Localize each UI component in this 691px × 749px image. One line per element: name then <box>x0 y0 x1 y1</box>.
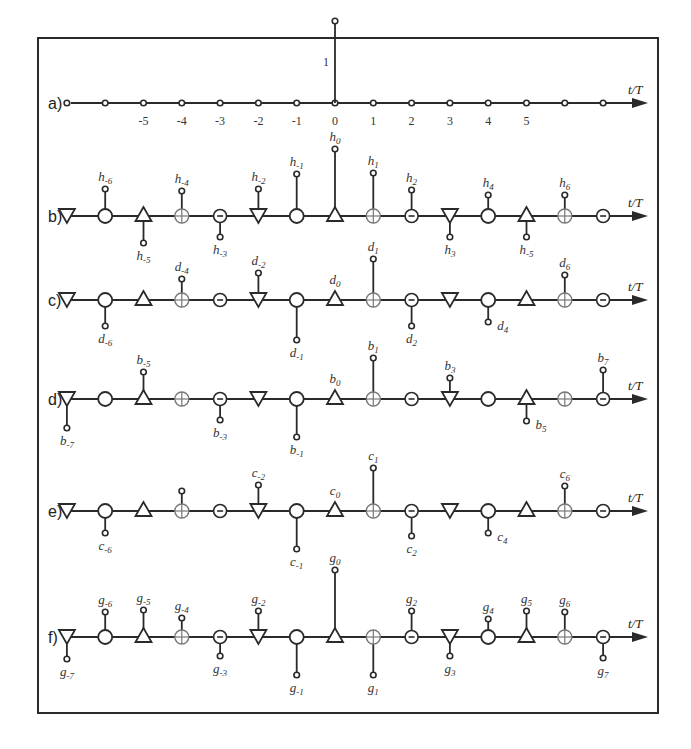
stem-tip <box>102 323 108 329</box>
tick-label: -5 <box>139 114 149 128</box>
sample-point <box>447 100 453 106</box>
sample-point <box>485 100 491 106</box>
stem-tip <box>409 533 415 539</box>
stem-tip <box>562 192 568 198</box>
coefficient-label: h4 <box>483 175 495 192</box>
stem-tip <box>447 234 453 240</box>
stem-tip <box>409 323 415 329</box>
sample-symbol-circle-icon <box>98 504 112 518</box>
axis-arrow-icon <box>632 632 648 642</box>
axis-arrow-icon <box>632 98 648 108</box>
stem-tip <box>562 483 568 489</box>
sample-symbol-circle-minus-icon <box>597 505 610 518</box>
coefficient-label: b1 <box>368 338 379 355</box>
coefficient-label: h2 <box>406 170 418 187</box>
axis-arrow-icon <box>632 506 648 516</box>
coefficient-label: g4 <box>483 599 495 616</box>
axis-arrow-icon <box>632 295 648 305</box>
stem-tip <box>141 607 147 613</box>
stem-tip <box>447 653 453 659</box>
coefficient-label: g2 <box>406 591 418 608</box>
coefficient-label: d6 <box>559 255 571 272</box>
coefficient-label: h-3 <box>213 242 227 259</box>
coefficient-label: g1 <box>368 680 379 697</box>
sample-point <box>562 100 568 106</box>
coefficient-label: h6 <box>559 175 571 192</box>
sample-point <box>256 100 262 106</box>
coefficient-label: d1 <box>368 239 379 256</box>
coefficient-label: g5 <box>521 591 533 608</box>
coefficient-label: h-5 <box>137 248 151 265</box>
stem-tip <box>217 234 223 240</box>
stem-tip <box>256 270 262 276</box>
sample-symbol-circle-minus-icon <box>597 393 610 406</box>
sample-symbol-tri-up-icon <box>136 502 152 516</box>
stem-tip <box>294 672 300 678</box>
axis-label: t/T <box>628 378 643 393</box>
coefficient-label: h-1 <box>290 154 304 171</box>
coefficient-label: d-4 <box>175 259 189 276</box>
coefficient-label: g-1 <box>290 680 304 697</box>
stem-tip <box>141 369 147 375</box>
sample-symbol-circle-minus-icon <box>214 294 227 307</box>
sample-point <box>294 100 300 106</box>
axis-arrow-icon <box>632 394 648 404</box>
sample-symbol-tri-up-icon <box>136 207 152 221</box>
tick-label: 2 <box>409 114 415 128</box>
coefficient-label: b-1 <box>290 442 304 459</box>
sample-symbol-circle-icon <box>98 209 112 223</box>
stem-tip <box>562 272 568 278</box>
stem-tip <box>600 367 606 373</box>
sample-symbol-tri-up-icon <box>327 291 343 305</box>
stem-tip <box>294 546 300 552</box>
sample-symbol-circle-icon <box>98 293 112 307</box>
stem-tip <box>485 192 491 198</box>
coefficient-label: b3 <box>444 358 456 375</box>
sample-point <box>217 100 223 106</box>
sample-symbol-circle-plus-icon <box>558 293 572 307</box>
coefficient-label: g-7 <box>60 664 74 681</box>
axis-label: t/T <box>628 490 643 505</box>
coefficient-label: c4 <box>497 529 508 546</box>
coefficient-label: g-6 <box>98 592 112 609</box>
coefficient-label: b-7 <box>60 433 74 450</box>
sample-symbol-circle-minus-icon <box>597 294 610 307</box>
sample-symbol-circle-icon <box>290 293 304 307</box>
stem-tip <box>64 656 70 662</box>
coefficient-label: c-1 <box>290 554 303 571</box>
sample-symbol-circle-minus-icon <box>405 505 418 518</box>
sample-symbol-circle-icon <box>481 392 495 406</box>
coefficient-label: g0 <box>330 550 342 567</box>
coefficient-label: d0 <box>330 272 342 289</box>
sample-symbol-tri-up-icon <box>136 628 152 642</box>
sampling-diagram: a)t/T-5-4-3-2-10123451b)t/Th-6h-5h-4h-3h… <box>0 0 691 749</box>
sample-point <box>409 100 415 106</box>
stem-tip <box>485 319 491 325</box>
coefficient-label: h-5 <box>520 242 534 259</box>
sample-symbol-circle-minus-icon <box>405 210 418 223</box>
axis-arrow-icon <box>632 211 648 221</box>
stem-tip <box>102 530 108 536</box>
stem-tip <box>371 355 377 361</box>
coefficient-label: d2 <box>406 331 418 348</box>
sample-point <box>179 100 185 106</box>
coefficient-label: d-1 <box>290 345 304 362</box>
stem-tip <box>294 171 300 177</box>
stem-tip <box>600 655 606 661</box>
impulse-amplitude-label: 1 <box>323 55 329 69</box>
tick-label: 4 <box>485 114 491 128</box>
sample-symbol-circle-plus-icon <box>366 293 380 307</box>
axis-label: t/T <box>628 279 643 294</box>
sample-symbol-circle-icon <box>98 392 112 406</box>
tick-label: -1 <box>292 114 302 128</box>
sample-symbol-tri-up-icon <box>519 291 535 305</box>
sample-symbol-circle-plus-icon <box>366 209 380 223</box>
coefficient-label: c2 <box>406 541 417 558</box>
stem-tip <box>179 276 185 282</box>
sample-symbol-circle-plus-icon <box>175 630 189 644</box>
stem-tip <box>179 488 185 494</box>
sample-symbol-tri-up-icon <box>136 390 152 404</box>
coefficient-label: d-2 <box>251 253 265 270</box>
sample-symbol-circle-minus-icon <box>405 294 418 307</box>
row-e: e)t/Tc-6c-2c-1c0c1c2c4c6 <box>48 448 648 571</box>
